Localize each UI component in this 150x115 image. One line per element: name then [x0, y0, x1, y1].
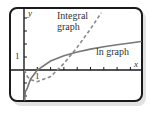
- x-tick-label-1: 1: [35, 72, 40, 81]
- integral-graph-label-line2: graph: [57, 22, 80, 32]
- integral-graph-label-line1: Integral: [57, 11, 88, 21]
- ln-graph-label: ln graph: [96, 47, 129, 57]
- x-axis-label: x: [134, 60, 138, 69]
- y-tick-label-1: 1: [15, 52, 20, 61]
- y-axis-label: y: [28, 9, 32, 18]
